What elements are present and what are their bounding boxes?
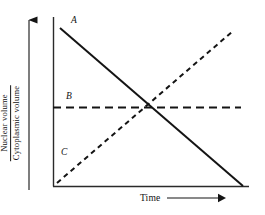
x-axis-label: Time (140, 192, 227, 203)
curve-label-a: A (71, 16, 77, 26)
y-axis-numerator: Nuclear volume (0, 85, 9, 161)
chart-canvas (0, 0, 265, 215)
curve-label-b: B (66, 92, 72, 102)
figure-root: Nuclear volume Cytoplasmic volume Time A… (0, 0, 265, 215)
x-axis-direction-arrow (167, 193, 227, 203)
curve-label-c: C (61, 148, 67, 158)
y-axis-denominator: Cytoplasmic volume (11, 85, 20, 161)
y-axis-fraction: Nuclear volume Cytoplasmic volume (0, 85, 20, 161)
x-axis-label-text: Time (140, 192, 160, 203)
y-axis-label: Nuclear volume Cytoplasmic volume (0, 58, 22, 188)
